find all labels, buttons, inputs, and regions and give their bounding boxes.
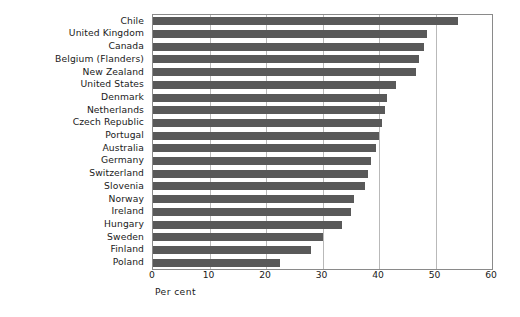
category-axis-labels: ChileUnited KingdomCanadaBelgium (Flande… (0, 14, 148, 268)
bar-row (153, 117, 492, 130)
category-label: Poland (0, 255, 148, 268)
bar-row (153, 142, 492, 155)
bar (153, 81, 396, 89)
bar-row (153, 40, 492, 53)
bar-chart: ChileUnited KingdomCanadaBelgium (Flande… (0, 0, 520, 317)
bar-row (153, 66, 492, 79)
bar (153, 208, 351, 216)
bar-row (153, 15, 492, 28)
bar-row (153, 231, 492, 244)
category-label: Chile (0, 14, 148, 27)
bar-row (153, 53, 492, 66)
bar-row (153, 193, 492, 206)
bar (153, 195, 354, 203)
category-label: Portugal (0, 128, 148, 141)
x-tick-label: 60 (485, 270, 497, 279)
bar-row (153, 28, 492, 41)
bar-row (153, 206, 492, 219)
x-axis-ticks: 0102030405060 (152, 270, 491, 284)
category-label: Hungary (0, 217, 148, 230)
bar-row (153, 129, 492, 142)
bar (153, 55, 419, 63)
category-label: Denmark (0, 90, 148, 103)
bar-row (153, 79, 492, 92)
bar-row (153, 256, 492, 269)
bar (153, 246, 311, 254)
category-label: Canada (0, 39, 148, 52)
bar (153, 259, 280, 267)
category-label: Netherlands (0, 103, 148, 116)
category-label: Finland (0, 243, 148, 256)
bar-row (153, 91, 492, 104)
bar (153, 30, 427, 38)
x-tick-label: 10 (203, 270, 215, 279)
plot-area (152, 14, 493, 270)
bar-row (153, 104, 492, 117)
x-tick-label: 50 (429, 270, 441, 279)
bar (153, 144, 376, 152)
bar (153, 182, 365, 190)
bar (153, 119, 382, 127)
x-tick-label: 20 (259, 270, 271, 279)
category-label: United Kingdom (0, 27, 148, 40)
bar-row (153, 180, 492, 193)
bar (153, 94, 387, 102)
x-tick-label: 40 (372, 270, 384, 279)
x-tick-label: 30 (316, 270, 328, 279)
bar (153, 157, 371, 165)
category-label: Slovenia (0, 179, 148, 192)
category-label: Ireland (0, 205, 148, 218)
x-tick-label: 0 (149, 270, 155, 279)
bar (153, 106, 385, 114)
category-label: Belgium (Flanders) (0, 52, 148, 65)
bar (153, 43, 424, 51)
category-label: United States (0, 78, 148, 91)
category-label: Australia (0, 141, 148, 154)
bar-row (153, 244, 492, 257)
x-axis-title: Per cent (155, 286, 196, 297)
category-label: New Zealand (0, 65, 148, 78)
bar (153, 233, 323, 241)
category-label: Switzerland (0, 166, 148, 179)
bar (153, 132, 379, 140)
bar (153, 68, 416, 76)
category-label: Sweden (0, 230, 148, 243)
bar (153, 17, 458, 25)
bar-series (153, 15, 492, 269)
bar-row (153, 218, 492, 231)
bar-row (153, 155, 492, 168)
bar (153, 221, 342, 229)
category-label: Czech Republic (0, 116, 148, 129)
bar (153, 170, 368, 178)
bar-row (153, 167, 492, 180)
category-label: Germany (0, 154, 148, 167)
category-label: Norway (0, 192, 148, 205)
